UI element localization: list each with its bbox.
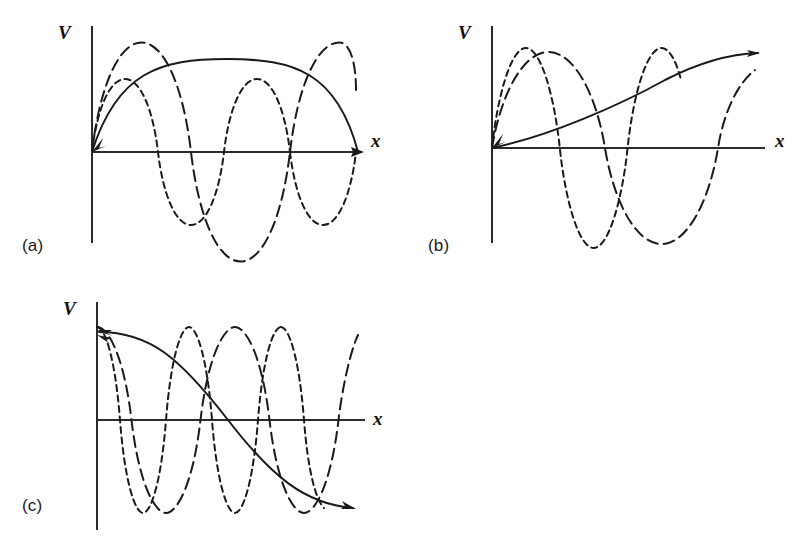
panel-c-y-axis-label: V [63, 298, 76, 320]
panel-a-curve-mode-2-tail [290, 43, 356, 153]
panel-c-label: (c) [22, 496, 42, 516]
panel-c-plot [0, 280, 410, 553]
panel-a: V x (a) [0, 0, 410, 280]
panel-c-curve-mode-3-tail [281, 327, 324, 508]
panel-b-curve-mode-1 [492, 53, 758, 148]
panel-a-y-axis-label: V [58, 22, 71, 44]
panel-a-curve-mode-3-tail [290, 152, 356, 225]
panel-c-x-axis-label: x [373, 408, 383, 430]
panel-b: V x (b) [410, 0, 803, 280]
panel-c: V x (c) [0, 280, 410, 553]
panel-b-label: (b) [428, 236, 449, 256]
panel-b-y-axis-label: V [458, 22, 471, 44]
panel-c-solid-end-arrowhead [341, 501, 356, 509]
standing-wave-figure: V x (a) V x (b) [0, 0, 803, 553]
panel-a-label: (a) [22, 236, 43, 256]
panel-a-x-axis-label: x [371, 130, 381, 152]
panel-b-x-axis-label: x [775, 130, 785, 152]
